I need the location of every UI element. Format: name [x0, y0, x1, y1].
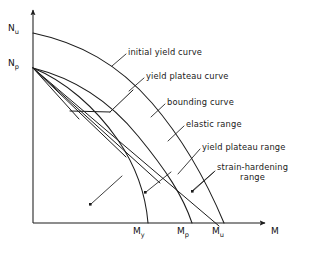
annotation-elastic-range: elastic range	[186, 120, 242, 130]
annotation-yield-plateau-range: yield plateau range	[202, 143, 286, 153]
axes-group	[33, 10, 265, 223]
interaction-diagram-svg	[0, 0, 314, 253]
x-axis-name: M	[271, 226, 279, 236]
curve-initial-yield	[33, 68, 148, 223]
ray-2	[33, 68, 126, 157]
annotation-yield-plateau-curve: yield plateau curve	[146, 72, 229, 82]
leader-yield-plateau-curve	[129, 78, 144, 91]
range-leader-strain-hardening	[193, 172, 214, 191]
annotation-initial-yield-curve: initial yield curve	[128, 48, 202, 58]
x-tick-My-sub: y	[141, 231, 145, 239]
ray-4	[33, 68, 219, 226]
leader-initial-yield-curve	[112, 54, 126, 66]
x-tick-Mp-sub: p	[185, 231, 189, 239]
dot-elastic-range	[89, 203, 92, 206]
x-tick-Mu-base: M	[212, 226, 220, 236]
x-tick-Mp-base: M	[177, 226, 185, 236]
y-tick-Np-sub: p	[15, 63, 19, 71]
x-tick-My-base: M	[133, 226, 141, 236]
y-tick-Nu-base: N	[8, 23, 15, 33]
y-tick-Np-base: N	[8, 58, 15, 68]
annotation-bounding-curve: bounding curve	[167, 98, 234, 108]
x-tick-Mu-sub: u	[220, 231, 224, 239]
x-tick-label-Mp: Mp	[177, 226, 189, 239]
radial-rays-from-Np	[33, 68, 219, 226]
y-tick-label-Np: Np	[8, 58, 19, 71]
leader-bounding-curve	[151, 104, 165, 117]
range-leader-elastic	[91, 176, 122, 204]
figure-canvas: Nu Np My Mp Mu M initial yield curve yie…	[0, 0, 314, 253]
ray-3	[33, 68, 160, 183]
annotation-strain-hardening-line2: range	[217, 173, 288, 183]
leader-elastic-range	[168, 126, 184, 141]
dot-yield-plateau-range	[144, 191, 147, 194]
y-tick-label-Nu: Nu	[8, 23, 19, 36]
crossbar-2	[110, 90, 133, 112]
crossbar-1	[70, 111, 110, 112]
annotation-strain-hardening-range: strain-hardening range	[217, 163, 288, 183]
leader-yield-plateau-range	[178, 149, 200, 174]
dot-strain-hardening-range	[191, 190, 194, 193]
y-tick-Nu-sub: u	[15, 28, 19, 36]
x-tick-label-Mu: Mu	[212, 226, 224, 239]
x-tick-label-My: My	[133, 226, 145, 239]
